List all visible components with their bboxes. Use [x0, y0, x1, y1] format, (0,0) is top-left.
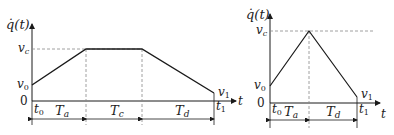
zero-label: 0 — [257, 96, 265, 110]
x-axis-label: t — [381, 107, 386, 121]
y-axis-label: q̇(t) — [6, 17, 30, 32]
t0-label: t0 — [34, 102, 44, 117]
velocity-curve — [270, 31, 357, 97]
v1-label: v1 — [218, 85, 230, 100]
t0-label: t0 — [272, 102, 282, 117]
zero-label: 0 — [20, 94, 28, 108]
tc-label: Tc — [110, 103, 124, 119]
v0-label: v0 — [254, 78, 266, 93]
y-axis-label: q̇(t) — [246, 7, 270, 22]
vc-label: vc — [256, 23, 268, 38]
triangular-profile: q̇(t) vc v0 0 v1 t t0 t1 Ta Td — [246, 7, 386, 128]
v0-label: v0 — [17, 77, 29, 92]
ta-label: Ta — [284, 104, 298, 120]
td-label: Td — [175, 103, 190, 119]
v1-label: v1 — [361, 87, 373, 102]
ta-label: Ta — [55, 103, 69, 119]
velocity-profile-diagrams: q̇(t) vc v0 0 v1 t t0 t1 Ta Tc Td q̇(t) … — [0, 0, 394, 135]
trapezoidal-profile: q̇(t) vc v0 0 v1 t t0 t1 Ta Tc Td — [6, 17, 243, 125]
x-axis-label: t — [238, 94, 243, 108]
vc-label: vc — [18, 41, 30, 56]
t1-label: t1 — [359, 102, 369, 117]
td-label: Td — [326, 104, 341, 120]
velocity-curve — [32, 49, 214, 93]
